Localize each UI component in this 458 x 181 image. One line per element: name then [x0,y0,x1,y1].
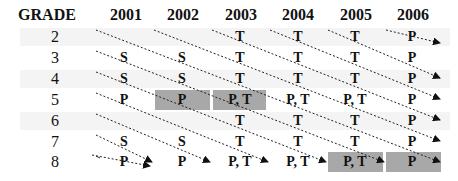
year-header-2005: 2005 [326,6,386,24]
grade-label: 5 [40,91,70,109]
grade-label: 2 [40,28,70,46]
cell: T [270,71,326,87]
cell: P, T [270,92,326,108]
cell: T [270,29,326,45]
year-header-2001: 2001 [96,6,156,24]
grade-label: 8 [40,153,70,171]
cell: T [327,71,383,87]
cell: T [212,29,268,45]
cell: T [270,113,326,129]
year-header-2006: 2006 [383,6,443,24]
cell: T [270,134,326,150]
cell: T [270,50,326,66]
cell: S [96,71,152,87]
cell-highlighted: P [154,92,210,108]
cell: T [212,50,268,66]
cell: P [384,29,440,45]
grade-label: 6 [40,112,70,130]
cell: P [384,71,440,87]
cell: P [96,92,152,108]
cell: P, T [270,154,326,170]
grade-label: 4 [40,70,70,88]
year-header-2003: 2003 [211,6,271,24]
grade-label: 7 [40,133,70,151]
cell: T [212,134,268,150]
cell: T [212,113,268,129]
cell: T [327,134,383,150]
cell: T [327,29,383,45]
cell: P, T [327,92,383,108]
cell-highlighted: P, T [327,154,383,170]
cell: P [154,154,210,170]
cell: S [96,50,152,66]
cell: P [384,50,440,66]
cell: P [384,92,440,108]
cell-highlighted: P, T [212,92,268,108]
grade-column-header: GRADE [2,6,92,24]
cell: P [384,113,440,129]
year-header-2002: 2002 [153,6,213,24]
cell: S [154,50,210,66]
cell: T [327,113,383,129]
cell: S [154,71,210,87]
cell: T [212,71,268,87]
cell: S [96,134,152,150]
cell: P, T [212,154,268,170]
year-header-2004: 2004 [268,6,328,24]
cell: P [384,134,440,150]
cell: T [327,50,383,66]
cell: P [96,154,152,170]
cell-highlighted: P [384,154,440,170]
grade-label: 3 [40,49,70,67]
cell: S [154,134,210,150]
